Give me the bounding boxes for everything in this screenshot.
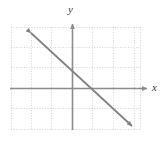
plotted-line bbox=[31, 33, 132, 126]
grid-horizontal-lines bbox=[11, 28, 141, 130]
graph-canvas bbox=[0, 0, 167, 145]
grid-vertical-lines bbox=[12, 27, 141, 130]
coordinate-plane-figure: y x bbox=[0, 0, 167, 145]
x-axis-label: x bbox=[152, 82, 157, 93]
y-axis-label: y bbox=[68, 4, 73, 15]
